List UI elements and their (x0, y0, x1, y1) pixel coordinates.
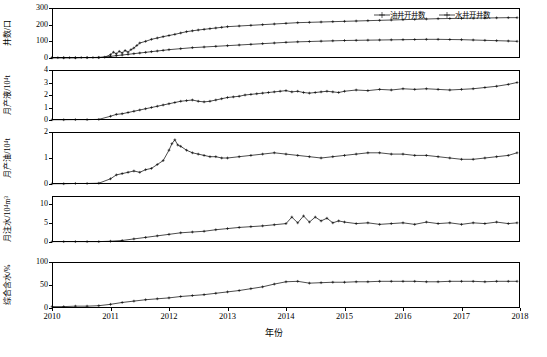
x-tick-mark (462, 308, 463, 311)
y-tick-mark (49, 41, 52, 42)
y-axis-label-monthly-injection: 月注水/10⁴m³ (1, 189, 12, 249)
y-tick-monthly-oil-1: 1 (22, 154, 48, 162)
plot-panel-monthly-oil (52, 132, 520, 184)
x-tick-4: 2014 (266, 312, 306, 321)
y-tick-mark (49, 58, 52, 59)
y-tick-well-count-0: 0 (22, 54, 48, 62)
y-tick-mark (49, 158, 52, 159)
y-tick-water-cut-2: 100 (22, 258, 48, 266)
plot-panel-monthly-liquid (52, 70, 520, 120)
x-tick-mark (345, 308, 346, 311)
x-tick-3: 2013 (208, 312, 248, 321)
y-tick-well-count-1: 100 (22, 37, 48, 45)
y-tick-mark (49, 132, 52, 133)
y-tick-monthly-liquid-2: 2 (22, 91, 48, 99)
y-tick-monthly-injection-2: 10 (22, 200, 48, 208)
legend-item-0: 油井开井数 (374, 9, 425, 20)
x-tick-mark (286, 308, 287, 311)
x-tick-mark (52, 308, 53, 311)
y-tick-mark (49, 95, 52, 96)
x-tick-mark (520, 308, 521, 311)
x-tick-1: 2011 (91, 312, 131, 321)
legend: 油井开井数水井开井数 (360, 9, 490, 20)
y-tick-monthly-liquid-3: 3 (22, 79, 48, 87)
y-tick-mark (49, 204, 52, 205)
x-tick-mark (169, 308, 170, 311)
legend-label: 油井开井数 (390, 11, 425, 20)
y-tick-monthly-oil-2: 2 (22, 128, 48, 136)
y-tick-monthly-injection-1: 5 (22, 219, 48, 227)
x-axis-title: 年份 (0, 326, 547, 339)
legend-marker-icon (439, 11, 455, 19)
x-tick-mark (228, 308, 229, 311)
x-tick-7: 2017 (442, 312, 482, 321)
y-tick-mark (49, 242, 52, 243)
y-tick-mark (49, 262, 52, 263)
y-tick-monthly-injection-0: 0 (22, 238, 48, 246)
x-tick-5: 2015 (325, 312, 365, 321)
plot-panel-water-cut (52, 262, 520, 308)
x-tick-8: 2018 (500, 312, 540, 321)
y-tick-mark (49, 285, 52, 286)
y-tick-mark (49, 184, 52, 185)
y-tick-mark (49, 108, 52, 109)
y-tick-mark (49, 83, 52, 84)
y-tick-monthly-liquid-4: 4 (22, 66, 48, 74)
y-axis-label-water-cut: 综合含水/% (1, 255, 12, 315)
x-tick-2: 2012 (149, 312, 189, 321)
y-tick-mark (49, 223, 52, 224)
y-tick-mark (49, 70, 52, 71)
y-tick-well-count-2: 200 (22, 21, 48, 29)
y-tick-monthly-liquid-0: 0 (22, 116, 48, 124)
x-tick-6: 2016 (383, 312, 423, 321)
y-tick-mark (49, 120, 52, 121)
x-tick-mark (111, 308, 112, 311)
legend-marker-icon (374, 11, 390, 19)
legend-item-1: 水井开井数 (439, 9, 490, 20)
y-tick-mark (49, 8, 52, 9)
x-tick-0: 2010 (32, 312, 72, 321)
plot-panel-monthly-injection (52, 196, 520, 242)
y-tick-mark (49, 25, 52, 26)
y-axis-label-monthly-oil: 月产油/10⁴t (1, 128, 12, 188)
y-axis-label-monthly-liquid: 月产液/10⁴t (1, 65, 12, 125)
x-tick-mark (403, 308, 404, 311)
y-tick-monthly-oil-0: 0 (22, 180, 48, 188)
y-tick-water-cut-1: 50 (22, 281, 48, 289)
legend-label: 水井开井数 (455, 11, 490, 20)
y-axis-label-well-count: 井数/口 (1, 3, 12, 63)
y-tick-monthly-liquid-1: 1 (22, 104, 48, 112)
chart-figure: 井数/口0100200300月产液/10⁴t01234月产油/10⁴t012月注… (0, 0, 547, 357)
y-tick-well-count-3: 300 (22, 4, 48, 12)
